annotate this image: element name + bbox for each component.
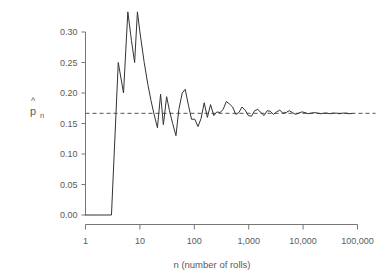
chart-container: 0.000.050.100.150.200.250.30 1101001,000…	[0, 0, 389, 278]
y-axis-tick-label: 0.30	[60, 27, 78, 37]
x-axis-tick-label: 100	[187, 236, 202, 246]
x-axis-tick-label: 1,000	[237, 236, 260, 246]
x-axis-title: n (number of rolls)	[173, 259, 250, 270]
y-axis-tick-label: 0.10	[60, 149, 78, 159]
line-chart: 0.000.050.100.150.200.250.30 1101001,000…	[0, 0, 389, 278]
x-axis-tick-label: 100,000	[341, 236, 374, 246]
y-axis-tick-label: 0.25	[60, 58, 78, 68]
y-axis-tick-label: 0.15	[60, 119, 78, 129]
y-axis-tick-label: 0.00	[60, 210, 78, 220]
x-axis-tick-label: 1	[83, 236, 88, 246]
y-axis-title-base: p	[30, 105, 36, 117]
x-axis-tick-label: 10	[135, 236, 145, 246]
y-axis-title-subscript: n	[40, 111, 44, 120]
y-axis-tick-label: 0.20	[60, 88, 78, 98]
x-axis-tick-label: 10,000	[289, 236, 317, 246]
y-axis-tick-label: 0.05	[60, 180, 78, 190]
